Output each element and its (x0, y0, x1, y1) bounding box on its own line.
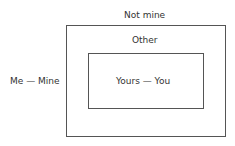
yours-you-label: Yours — You (116, 77, 170, 86)
not-mine-label: Not mine (124, 11, 165, 20)
other-label: Other (132, 36, 158, 45)
me-mine-label: Me — Mine (10, 77, 60, 86)
